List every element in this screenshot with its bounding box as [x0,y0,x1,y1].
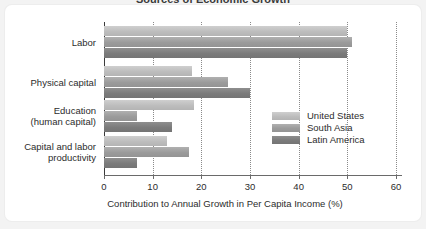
x-axis-tick-label: 40 [284,181,314,192]
chart-figure: Sources of Economic Growth 0102030405060… [0,0,426,229]
chart-legend: United StatesSouth AsiaLatin America [272,110,365,146]
x-axis-tick [396,175,397,179]
legend-item[interactable]: United States [272,110,365,121]
x-axis-tick-label: 20 [186,181,216,192]
bar [104,88,250,98]
x-axis-tick-label: 10 [138,181,168,192]
bar [104,122,172,132]
legend-label: Latin America [307,134,365,145]
bar [104,158,137,168]
category-label-line: Education [0,105,96,116]
bar [104,66,192,76]
category-label: Capital and laborproductivity [0,141,96,163]
bar [104,111,137,121]
legend-label: South Asia [307,122,352,133]
x-axis-tick-label: 30 [235,181,265,192]
bar [104,48,347,58]
category-label-line: Physical capital [0,77,96,88]
legend-item[interactable]: South Asia [272,122,365,133]
legend-item[interactable]: Latin America [272,134,365,145]
bar [104,136,167,146]
bar [104,147,189,157]
category-label-line: Capital and labor [0,141,96,152]
x-axis-tick [250,175,251,179]
category-label-line: (human capital) [0,116,96,127]
x-axis-tick [104,175,105,179]
x-axis-tick-label: 0 [89,181,119,192]
x-axis-tick-label: 50 [332,181,362,192]
legend-swatch [272,112,300,120]
x-axis-tick [201,175,202,179]
x-axis-tick [153,175,154,179]
legend-swatch [272,124,300,132]
bar [104,77,228,87]
x-axis-title: Contribution to Annual Growth in Per Cap… [40,198,410,209]
bar [104,26,347,36]
bar [104,37,352,47]
gridline [396,22,397,175]
x-axis-tick [299,175,300,179]
bar [104,100,194,110]
x-axis-tick-label: 60 [381,181,411,192]
category-label: Labor [0,37,96,48]
category-label: Physical capital [0,77,96,88]
category-label: Education(human capital) [0,105,96,127]
x-axis-tick [347,175,348,179]
category-label-line: Labor [0,37,96,48]
legend-label: United States [307,110,364,121]
legend-swatch [272,136,300,144]
x-axis-line [104,175,402,176]
category-label-line: productivity [0,152,96,163]
